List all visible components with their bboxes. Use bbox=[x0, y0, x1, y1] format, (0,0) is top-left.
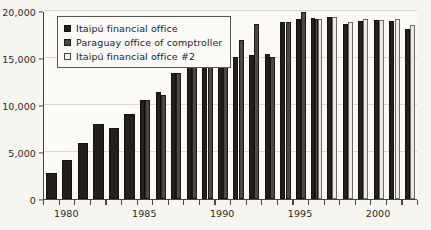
x-tick-mark bbox=[121, 200, 122, 205]
x-tick-mark bbox=[386, 200, 387, 205]
bar bbox=[410, 25, 415, 199]
bar-group bbox=[340, 12, 356, 199]
bar-chart: 05,00010,00015,00020,000 198019851990199… bbox=[0, 0, 431, 230]
x-tick-mark bbox=[199, 200, 200, 205]
bar bbox=[78, 143, 88, 199]
bar bbox=[270, 57, 275, 199]
bar bbox=[296, 19, 301, 199]
x-tick-mark bbox=[43, 200, 44, 205]
bar bbox=[343, 24, 348, 199]
bar bbox=[280, 22, 285, 199]
bar bbox=[156, 92, 161, 199]
bar bbox=[374, 20, 379, 199]
bar bbox=[348, 22, 353, 199]
x-tick-mark bbox=[277, 200, 278, 205]
x-tick-label: 1980 bbox=[54, 208, 79, 219]
x-tick-mark bbox=[261, 200, 262, 205]
bar bbox=[124, 114, 134, 199]
bar bbox=[249, 55, 254, 199]
legend-swatch-icon bbox=[64, 39, 71, 46]
bar bbox=[161, 95, 166, 199]
y-tick-mark bbox=[39, 105, 43, 106]
bar-group bbox=[325, 12, 341, 199]
legend-swatch-icon bbox=[64, 25, 71, 32]
x-tick-label: 1995 bbox=[288, 208, 313, 219]
bar bbox=[327, 17, 332, 199]
bar bbox=[405, 29, 410, 199]
bar bbox=[233, 57, 238, 199]
bar bbox=[140, 100, 145, 199]
y-tick-mark bbox=[39, 58, 43, 59]
x-tick-mark bbox=[246, 200, 247, 205]
y-tick-label: 15,000 bbox=[2, 54, 36, 65]
legend-label: Itaipú financial office bbox=[76, 23, 178, 34]
bar-group bbox=[278, 12, 294, 199]
bar bbox=[363, 19, 368, 199]
y-tick-mark bbox=[39, 11, 43, 12]
x-tick-mark bbox=[230, 200, 231, 205]
x-tick-label: 2000 bbox=[366, 208, 391, 219]
x-tick-label: 1985 bbox=[132, 208, 157, 219]
bar bbox=[286, 22, 291, 199]
legend-label: Paraguay office of comptroller bbox=[76, 37, 222, 48]
y-tick-label: 5,000 bbox=[8, 148, 36, 159]
y-tick-mark bbox=[39, 152, 43, 153]
x-tick-mark bbox=[370, 200, 371, 205]
bar bbox=[265, 54, 270, 199]
legend-item: Itaipú financial office bbox=[64, 21, 222, 35]
x-tick-label: 1990 bbox=[210, 208, 235, 219]
bar bbox=[145, 100, 150, 199]
x-tick-mark bbox=[105, 200, 106, 205]
y-tick-label: 10,000 bbox=[2, 101, 36, 112]
x-tick-mark bbox=[308, 200, 309, 205]
x-tick-mark bbox=[339, 200, 340, 205]
chart-legend: Itaipú financial office Paraguay office … bbox=[57, 16, 231, 68]
gridline bbox=[44, 10, 417, 11]
bar bbox=[301, 12, 306, 199]
legend-item: Paraguay office of comptroller bbox=[64, 35, 222, 49]
x-tick-mark bbox=[214, 200, 215, 205]
x-tick-mark bbox=[74, 200, 75, 205]
bar-group bbox=[356, 12, 372, 199]
bar-group bbox=[262, 12, 278, 199]
bar bbox=[389, 21, 394, 199]
x-tick-mark bbox=[183, 200, 184, 205]
bar-group bbox=[247, 12, 263, 199]
bar bbox=[379, 20, 384, 199]
legend-label: Itaipú financial office #2 bbox=[76, 51, 195, 62]
bar bbox=[332, 17, 337, 199]
y-tick-label: 0 bbox=[30, 195, 36, 206]
bar-group bbox=[371, 12, 387, 199]
bar-group bbox=[231, 12, 247, 199]
legend-swatch-icon bbox=[64, 53, 71, 60]
bar bbox=[171, 73, 176, 199]
bar bbox=[176, 73, 181, 199]
bar bbox=[46, 173, 56, 199]
bar bbox=[218, 46, 223, 199]
bar-group bbox=[309, 12, 325, 199]
x-tick-mark bbox=[137, 200, 138, 205]
bar bbox=[395, 19, 400, 199]
bar bbox=[187, 58, 192, 199]
bar bbox=[62, 160, 72, 199]
bar bbox=[239, 40, 244, 199]
bar bbox=[254, 24, 259, 199]
bar bbox=[318, 19, 321, 199]
x-tick-mark bbox=[59, 200, 60, 205]
x-tick-mark bbox=[90, 200, 91, 205]
x-tick-mark bbox=[324, 200, 325, 205]
y-tick-label: 20,000 bbox=[2, 7, 36, 18]
bar bbox=[192, 58, 197, 199]
bar bbox=[93, 124, 103, 199]
bar-group bbox=[293, 12, 309, 199]
x-tick-mark bbox=[355, 200, 356, 205]
legend-item: Itaipú financial office #2 bbox=[64, 49, 222, 63]
bar-group bbox=[402, 12, 418, 199]
bar bbox=[358, 21, 363, 199]
x-tick-mark bbox=[168, 200, 169, 205]
x-tick-mark bbox=[417, 200, 418, 205]
x-tick-mark bbox=[152, 200, 153, 205]
x-tick-mark bbox=[292, 200, 293, 205]
bar bbox=[109, 128, 119, 199]
x-tick-mark bbox=[401, 200, 402, 205]
